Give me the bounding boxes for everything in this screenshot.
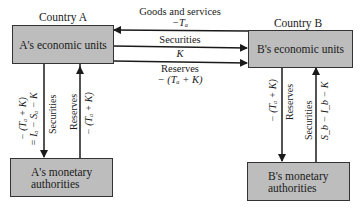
reserves-label: Reserves — [161, 63, 199, 74]
a-reserves-value: − (Tₐ + K) — [83, 92, 94, 135]
a-monetary-authorities-box: A's monetary authorities — [10, 158, 113, 197]
securities-label: Securities — [159, 34, 200, 45]
country-b-title: Country B — [274, 18, 322, 29]
b-monetary-line2: authorities — [268, 182, 317, 194]
securities-value: K — [176, 48, 183, 59]
country-a-title: Country A — [39, 12, 87, 23]
b-securities-expr: S_b − I_b − K — [319, 82, 330, 141]
a-monetary-line1: A's monetary — [31, 166, 92, 178]
b-monetary-authorities-box: B's monetary authorities — [247, 162, 350, 201]
a-securities-label: Securities — [47, 95, 58, 134]
b-reserves-label: Reserves — [284, 84, 295, 120]
b-economic-units-box: B's economic units — [248, 30, 353, 68]
goods-services-label: Goods and services — [139, 6, 221, 17]
b-monetary-line1: B's monetary — [268, 170, 329, 182]
a-securities-expr2: = Iₐ − Sₐ − K — [28, 92, 39, 146]
reserves-value: − (Tₐ + K) — [158, 74, 203, 85]
b-reserves-value: − (Tₐ + K) — [267, 79, 278, 122]
goods-arrow — [114, 30, 248, 31]
a-monetary-line2: authorities — [31, 178, 80, 190]
a-reserves-label: Reserves — [68, 94, 79, 130]
a-economic-units-box: A's economic units — [12, 25, 114, 64]
b-securities-label: Securities — [303, 101, 314, 140]
goods-services-value: −Tₐ — [172, 17, 188, 28]
a-securities-expr1: − (Tₐ + K) — [17, 97, 28, 140]
a-economic-units-label: A's economic units — [19, 39, 107, 51]
b-economic-units-label: B's economic units — [257, 43, 344, 55]
